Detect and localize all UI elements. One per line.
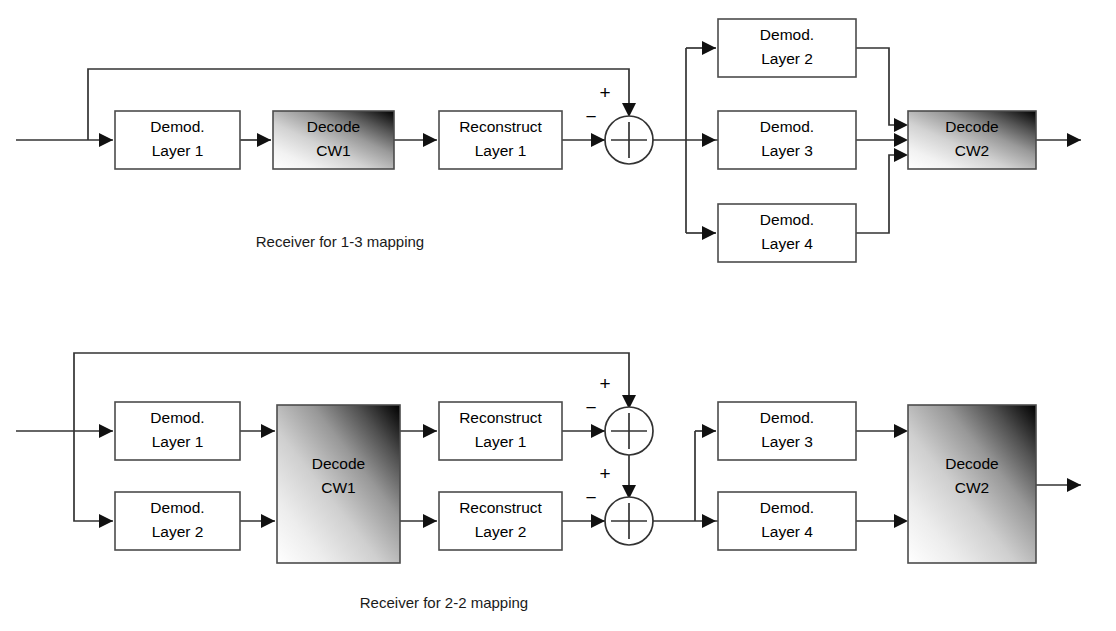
block-label-line1: Reconstruct: [459, 409, 542, 426]
block-label-line2: Layer 1: [152, 142, 204, 159]
block-reconstruct-layer-1[interactable]: Reconstruct Layer 1: [439, 402, 562, 460]
arrowhead-into-summer-plus: [622, 103, 636, 117]
block-label-line2: Layer 1: [152, 433, 204, 450]
arrowhead-into-demod1: [99, 424, 113, 438]
block-label-line1: Demod.: [760, 26, 814, 43]
arrowhead-into-decode-cw2-bottom: [894, 514, 908, 528]
arrowhead-into-decode-cw2-mid: [894, 133, 908, 147]
block-decode-cw2[interactable]: Decode CW2: [908, 111, 1036, 169]
block-diagram-canvas: + − Demod. Layer 1 Decode CW1 Reconstruc…: [0, 0, 1116, 631]
caption-receiver-2-2: Receiver for 2-2 mapping: [360, 594, 528, 611]
caption-receiver-1-3: Receiver for 1-3 mapping: [256, 233, 424, 250]
block-label-line1: Demod.: [150, 118, 204, 135]
block-label-line1: Demod.: [760, 409, 814, 426]
summer2-minus-sign: −: [585, 487, 596, 508]
block-label-line1: Reconstruct: [459, 499, 542, 516]
block-label-line1: Decode: [945, 455, 998, 472]
block-label-line2: Layer 2: [761, 50, 813, 67]
summing-junction-1: + −: [585, 82, 653, 164]
summer-plus-sign: +: [599, 82, 610, 103]
figure-root: + − Demod. Layer 1 Decode CW1 Reconstruc…: [0, 0, 1116, 631]
block-demod-layer-1[interactable]: Demod. Layer 1: [115, 402, 240, 460]
block-label-line2: CW2: [955, 479, 989, 496]
arrowhead-into-decode-cw1: [257, 133, 271, 147]
block-demod-layer-3[interactable]: Demod. Layer 3: [718, 402, 856, 460]
block-label-line1: Demod.: [760, 499, 814, 516]
block-label-line2: Layer 3: [761, 142, 813, 159]
block-label-line2: Layer 4: [761, 235, 813, 252]
block-demod-layer-4[interactable]: Demod. Layer 4: [718, 204, 856, 262]
wire-feedback-to-demod2: [74, 431, 113, 521]
block-label-line2: CW1: [316, 142, 350, 159]
block-label-line1: Decode: [312, 455, 365, 472]
block-label-line1: Reconstruct: [459, 118, 542, 135]
block-label-line1: Demod.: [760, 211, 814, 228]
summer1-plus-sign: +: [599, 373, 610, 394]
block-demod-layer-2[interactable]: Demod. Layer 2: [115, 492, 240, 550]
arrowhead-into-demod1: [99, 133, 113, 147]
block-label-line2: Layer 1: [475, 433, 527, 450]
block-label-line2: Layer 3: [761, 433, 813, 450]
arrowhead-into-reconstruct2: [423, 514, 437, 528]
block-label-line2: CW2: [955, 142, 989, 159]
arrowhead-into-demod3: [702, 424, 716, 438]
block-demod-layer-4[interactable]: Demod. Layer 4: [718, 492, 856, 550]
arrowhead-into-summer-minus: [591, 133, 605, 147]
block-label-line2: Layer 4: [761, 523, 813, 540]
summer2-plus-sign: +: [599, 463, 610, 484]
summer1-minus-sign: −: [585, 397, 596, 418]
block-label-line2: Layer 2: [475, 523, 527, 540]
arrowhead-into-decode-cw1-bottom: [261, 514, 275, 528]
block-decode-cw1[interactable]: Decode CW1: [273, 111, 394, 169]
arrowhead-into-decode-cw2-top: [894, 424, 908, 438]
block-reconstruct-layer-2[interactable]: Reconstruct Layer 2: [439, 492, 562, 550]
block-label-line1: Decode: [307, 118, 360, 135]
wire-demod2-to-decode-cw2: [856, 48, 905, 125]
block-label-line2: Layer 1: [475, 142, 527, 159]
block-decode-cw1[interactable]: Decode CW1: [277, 405, 400, 563]
block-decode-cw2[interactable]: Decode CW2: [908, 405, 1036, 563]
diagram-receiver-1-3: + − Demod. Layer 1 Decode CW1 Reconstruc…: [16, 19, 1081, 262]
arrowhead-into-decode-cw2-bottom: [894, 148, 908, 162]
block-label-line1: Demod.: [760, 118, 814, 135]
block-demod-layer-1[interactable]: Demod. Layer 1: [115, 111, 240, 169]
block-label-line2: Layer 2: [152, 523, 204, 540]
arrowhead-into-summer1-minus: [591, 424, 605, 438]
arrowhead-into-demod2: [99, 514, 113, 528]
arrowhead-output: [1067, 133, 1081, 147]
arrowhead-into-reconstruct1: [423, 424, 437, 438]
arrowhead-into-summer2-minus: [591, 514, 605, 528]
block-label-line1: Demod.: [150, 499, 204, 516]
diagram-receiver-2-2: + − + − Demod. Layer 1 Demod. Layer 2 De…: [16, 353, 1081, 611]
block-label-line2: CW1: [321, 479, 355, 496]
arrowhead-into-demod4: [702, 514, 716, 528]
arrowhead-output: [1067, 478, 1081, 492]
block-demod-layer-3[interactable]: Demod. Layer 3: [718, 111, 856, 169]
block-label-line1: Decode: [945, 118, 998, 135]
wire-demod4-to-decode-cw2: [856, 155, 905, 233]
arrowhead-into-decode-cw2-top: [894, 118, 908, 132]
arrowhead-into-decode-cw1-top: [261, 424, 275, 438]
summing-junction-1: + −: [585, 373, 653, 455]
arrowhead-into-demod2: [702, 41, 716, 55]
summer-minus-sign: −: [585, 106, 596, 127]
arrowhead-into-demod3: [702, 133, 716, 147]
arrowhead-into-reconstruct1: [423, 133, 437, 147]
block-label-line1: Demod.: [150, 409, 204, 426]
summing-junction-2: + −: [585, 463, 653, 545]
block-reconstruct-layer-1[interactable]: Reconstruct Layer 1: [439, 111, 562, 169]
arrowhead-into-demod4: [702, 226, 716, 240]
block-demod-layer-2[interactable]: Demod. Layer 2: [718, 19, 856, 77]
